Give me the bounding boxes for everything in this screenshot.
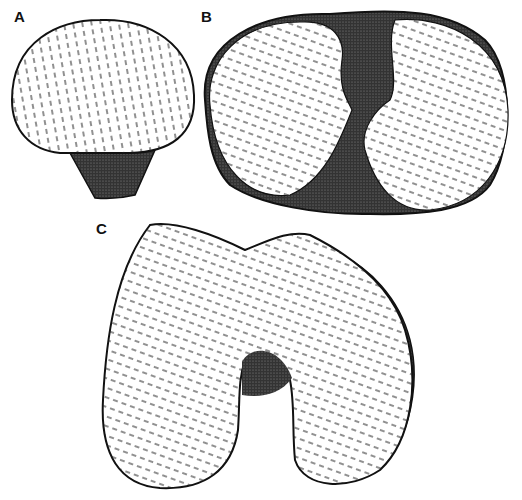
panel-a-drawing <box>12 20 194 199</box>
anatomical-illustration <box>0 0 522 500</box>
panel-b-drawing <box>205 11 508 214</box>
panel-c-drawing <box>103 224 414 488</box>
